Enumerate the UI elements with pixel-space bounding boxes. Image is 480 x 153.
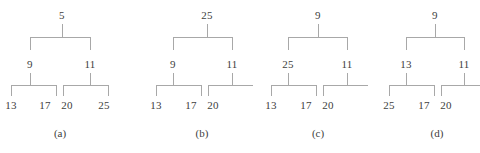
tree-a-leaf2-drop — [56, 85, 57, 96]
tree-a-leaf4-drop — [108, 85, 109, 96]
tree-c-right-bar — [323, 85, 368, 86]
tree-c: 9 25 11 13 17 20 (c) — [260, 0, 365, 153]
tree-b-leaf-2: 17 — [185, 100, 197, 111]
tree-a-right-drop — [90, 37, 91, 50]
tree-b: 25 9 11 13 17 20 (b) — [145, 0, 250, 153]
tree-a-leaf-4: 25 — [98, 100, 110, 111]
tree-d-node-left: 13 — [400, 59, 412, 70]
tree-b-node-right: 11 — [226, 59, 237, 70]
tree-b-left-stem — [173, 73, 174, 85]
tree-d-leaf-3: 20 — [440, 100, 452, 111]
tree-d-leaf-1: 25 — [383, 100, 395, 111]
tree-c-leaf2-drop — [316, 85, 317, 96]
tree-a-top-bar — [30, 37, 90, 38]
tree-d: 9 13 11 25 17 20 (d) — [378, 0, 480, 153]
tree-c-leaf-2: 17 — [300, 100, 312, 111]
tree-b-right-stem — [232, 73, 233, 85]
tree-a-root: 5 — [59, 10, 65, 21]
tree-c-right-drop — [347, 37, 348, 50]
tree-b-left-drop — [173, 37, 174, 50]
tree-a-left-stem — [30, 73, 31, 85]
tree-b-right-drop — [232, 37, 233, 50]
tree-c-caption: (c) — [312, 128, 324, 139]
tree-c-left-drop — [288, 37, 289, 50]
tree-d-leaf3-drop — [441, 85, 442, 96]
tree-a-leaf1-drop — [11, 85, 12, 96]
tree-c-left-bar — [271, 85, 316, 86]
tree-d-root: 9 — [432, 10, 438, 21]
tree-d-top-bar — [406, 37, 464, 38]
tree-a-root-stem — [62, 24, 63, 37]
tree-a: 5 9 11 13 17 20 25 (a) — [0, 0, 118, 153]
tree-d-right-drop — [464, 37, 465, 50]
tree-a-leaf-1: 13 — [5, 100, 17, 111]
tree-d-left-stem — [406, 73, 407, 85]
tree-b-root: 25 — [201, 10, 213, 21]
tree-b-leaf-1: 13 — [150, 100, 162, 111]
tree-b-leaf1-drop — [156, 85, 157, 96]
tree-b-top-bar — [173, 37, 232, 38]
tree-c-root: 9 — [315, 10, 321, 21]
tree-c-leaf3-drop — [323, 85, 324, 96]
tree-d-caption: (d) — [431, 128, 444, 139]
tree-c-leaf1-drop — [271, 85, 272, 96]
tree-d-left-drop — [406, 37, 407, 50]
tree-b-root-stem — [207, 24, 208, 37]
tree-a-node-left: 9 — [27, 59, 33, 70]
tree-a-leaf-3: 20 — [61, 100, 73, 111]
tree-d-root-stem — [435, 24, 436, 37]
tree-c-right-stem — [347, 73, 348, 85]
tree-c-top-bar — [288, 37, 347, 38]
tree-d-right-stem — [464, 73, 465, 85]
tree-b-left-bar — [156, 85, 201, 86]
tree-a-left-bar — [11, 85, 56, 86]
tree-c-node-left: 25 — [282, 59, 294, 70]
tree-c-leaf-3: 20 — [322, 100, 334, 111]
tree-a-right-bar — [63, 85, 108, 86]
tree-a-node-right: 11 — [84, 59, 95, 70]
tree-c-node-right: 11 — [341, 59, 352, 70]
tree-d-leaf2-drop — [434, 85, 435, 96]
tree-d-leaf1-drop — [389, 85, 390, 96]
tree-c-left-stem — [288, 73, 289, 85]
tree-c-root-stem — [318, 24, 319, 37]
tree-b-caption: (b) — [196, 128, 209, 139]
tree-b-right-bar — [208, 85, 253, 86]
tree-d-leaf-2: 17 — [418, 100, 430, 111]
tree-figure-row: 5 9 11 13 17 20 25 (a) 25 9 11 — [0, 0, 480, 153]
tree-d-left-bar — [389, 85, 434, 86]
tree-b-leaf-3: 20 — [207, 100, 219, 111]
tree-b-node-left: 9 — [170, 59, 176, 70]
tree-a-leaf-2: 17 — [39, 100, 51, 111]
tree-b-leaf2-drop — [201, 85, 202, 96]
tree-b-leaf3-drop — [208, 85, 209, 96]
tree-d-node-right: 11 — [458, 59, 469, 70]
tree-a-caption: (a) — [54, 128, 66, 139]
tree-a-leaf3-drop — [63, 85, 64, 96]
tree-d-right-bar — [441, 85, 480, 86]
tree-a-right-stem — [90, 73, 91, 85]
tree-a-left-drop — [30, 37, 31, 50]
tree-c-leaf-1: 13 — [265, 100, 277, 111]
